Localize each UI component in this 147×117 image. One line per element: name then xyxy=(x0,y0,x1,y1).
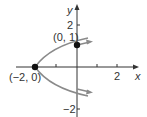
x-axis-arrow-icon xyxy=(133,65,139,70)
y-tick-label-2: 2 xyxy=(67,19,73,31)
point-label-neg2-0: (−2, 0) xyxy=(9,71,41,83)
upper-arrow-icon xyxy=(86,40,93,45)
point-label-0-1: (0, 1) xyxy=(53,31,79,43)
y-axis-arrow-icon xyxy=(75,4,80,10)
x-tick-label-2: 2 xyxy=(114,70,120,82)
lower-arrow-icon xyxy=(86,90,93,95)
y-tick-label-neg2: −2 xyxy=(63,103,76,115)
x-axis-label: x xyxy=(134,70,141,82)
chart-canvas: y x 2 −2 2 (0, 1) (−2, 0) xyxy=(0,0,147,117)
y-axis-label: y xyxy=(66,4,74,16)
point-neg2-0 xyxy=(32,64,38,70)
